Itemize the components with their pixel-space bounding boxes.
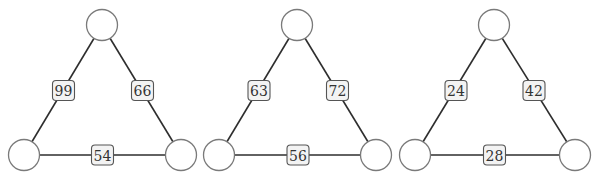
edge-label-bottom: 54 [92, 145, 114, 165]
triangle-puzzle-1: 99 66 54 [9, 10, 197, 171]
node-bottom-left[interactable] [400, 140, 431, 171]
node-bottom-left[interactable] [204, 140, 235, 171]
triangle-puzzle-3: 24 42 28 [400, 10, 591, 171]
edge-label-left-text: 99 [55, 83, 73, 99]
edge-label-left: 24 [445, 81, 467, 101]
edge-label-bottom: 56 [287, 145, 309, 165]
node-top[interactable] [87, 10, 118, 41]
triangle-puzzle-diagram: 99 66 54 63 [0, 0, 593, 176]
node-bottom-right[interactable] [560, 140, 591, 171]
node-top[interactable] [282, 10, 313, 41]
node-top[interactable] [479, 10, 510, 41]
edge-label-right-text: 42 [525, 83, 543, 99]
triangle-puzzle-2: 63 72 56 [204, 10, 392, 171]
edge-label-right: 72 [327, 81, 349, 101]
node-bottom-right[interactable] [361, 140, 392, 171]
node-bottom-right[interactable] [166, 140, 197, 171]
edge-label-right-text: 72 [329, 83, 347, 99]
edge-label-right-text: 66 [134, 83, 152, 99]
edge-label-bottom-text: 28 [486, 148, 504, 164]
edge-label-right: 66 [132, 81, 154, 101]
edge-label-right: 42 [523, 81, 545, 101]
edge-label-left-text: 24 [447, 83, 465, 99]
edge-label-left: 99 [53, 81, 75, 101]
edge-label-left: 63 [248, 81, 270, 101]
edge-label-bottom-text: 56 [289, 148, 307, 164]
node-bottom-left[interactable] [9, 140, 40, 171]
edge-label-bottom-text: 54 [94, 148, 112, 164]
edge-label-left-text: 63 [250, 83, 268, 99]
edge-label-bottom: 28 [484, 145, 506, 165]
